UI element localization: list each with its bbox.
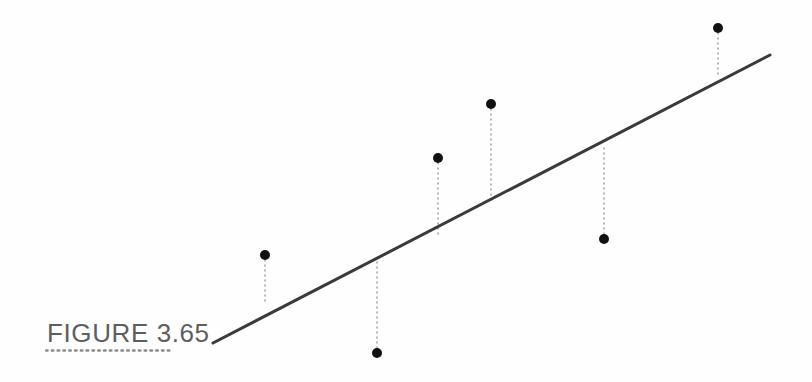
data-point — [433, 153, 443, 163]
data-point — [260, 250, 270, 260]
data-point — [486, 99, 496, 109]
figure-caption-block: FIGURE 3.65 — [45, 318, 245, 362]
figure-container: FIGURE 3.65 — [0, 0, 812, 382]
figure-caption-label: FIGURE 3.65 — [47, 318, 210, 348]
data-point — [599, 234, 609, 244]
caption-dotted-rule — [45, 349, 173, 352]
data-point — [713, 23, 723, 33]
residual-segments-group — [265, 28, 718, 353]
data-point — [372, 348, 382, 358]
regression-line — [213, 55, 770, 343]
